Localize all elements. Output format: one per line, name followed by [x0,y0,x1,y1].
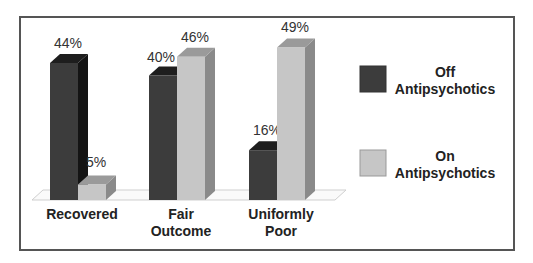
bar-chart: 44%5%Recovered40%46%FairOutcome16%49%Uni… [0,0,533,263]
svg-text:Off: Off [435,64,456,80]
category-label: Uniformly [248,206,314,222]
bar-on-1: 46% [177,29,215,200]
svg-text:On: On [435,148,454,164]
svg-text:Antipsychotics: Antipsychotics [395,81,496,97]
data-label: 16% [253,122,281,138]
legend-item-1: OnAntipsychotics [360,148,495,181]
category-label: Poor [265,223,297,239]
legend-item-0: OffAntipsychotics [360,64,495,97]
data-label: 40% [147,49,175,65]
category-label: Outcome [151,223,212,239]
legend-swatch [360,150,386,176]
category-label: Fair [168,206,194,222]
data-label: 49% [281,19,309,35]
data-label: 46% [181,29,209,45]
svg-text:Antipsychotics: Antipsychotics [395,165,496,181]
legend-swatch [360,66,386,92]
bar-off-0: 44% [50,35,88,200]
bar-on-2: 49% [277,19,315,200]
data-label: 5% [86,154,106,170]
category-label: Recovered [46,206,118,222]
data-label: 44% [54,35,82,51]
